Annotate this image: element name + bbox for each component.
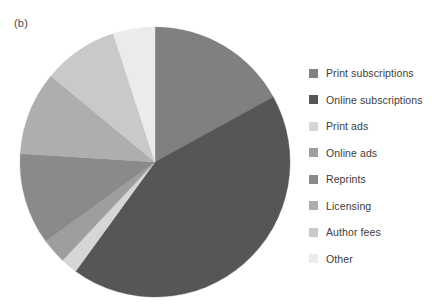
legend-item[interactable]: Online subscriptions xyxy=(309,87,446,114)
legend-swatch-icon xyxy=(309,122,318,131)
legend-item[interactable]: Other xyxy=(309,246,446,273)
legend-item[interactable]: Licensing xyxy=(309,193,446,220)
pie-chart-figure: (b) Print subscriptionsOnline subscripti… xyxy=(0,0,446,306)
legend-swatch-icon xyxy=(309,254,318,263)
legend-item-label: Licensing xyxy=(326,201,371,212)
legend-item-label: Online ads xyxy=(326,148,377,159)
legend-item[interactable]: Reprints xyxy=(309,166,446,193)
legend-item-label: Online subscriptions xyxy=(326,95,423,106)
legend-swatch-icon xyxy=(309,148,318,157)
legend-item-label: Print subscriptions xyxy=(326,68,414,79)
legend-item[interactable]: Print ads xyxy=(309,113,446,140)
legend-swatch-icon xyxy=(309,95,318,104)
chart-legend: Print subscriptionsOnline subscriptionsP… xyxy=(309,60,446,272)
legend-item-label: Author fees xyxy=(326,227,381,238)
legend-swatch-icon xyxy=(309,69,318,78)
legend-item[interactable]: Online ads xyxy=(309,140,446,167)
legend-item[interactable]: Author fees xyxy=(309,219,446,246)
pie-plot-area xyxy=(0,0,310,306)
legend-item-label: Reprints xyxy=(326,174,366,185)
legend-item-label: Other xyxy=(326,254,353,265)
legend-swatch-icon xyxy=(309,175,318,184)
legend-swatch-icon xyxy=(309,201,318,210)
legend-item-label: Print ads xyxy=(326,121,368,132)
legend-swatch-icon xyxy=(309,228,318,237)
legend-item[interactable]: Print subscriptions xyxy=(309,60,446,87)
pie-svg xyxy=(0,0,310,306)
pie-slice-group xyxy=(20,27,290,297)
